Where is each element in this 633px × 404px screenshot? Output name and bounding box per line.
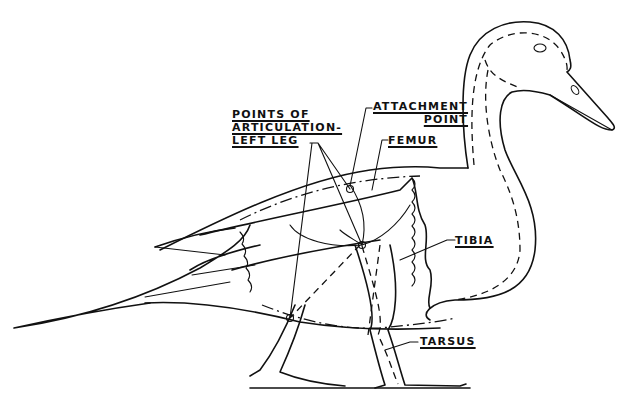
label-tarsus: TARSUS bbox=[420, 335, 476, 348]
leader-tibia bbox=[400, 240, 455, 260]
far-leg-bone-dashed bbox=[290, 245, 360, 318]
near-leg bbox=[355, 245, 466, 388]
label-femur: FEMUR bbox=[388, 134, 437, 147]
wing-outline bbox=[200, 178, 431, 308]
label-tibia: TIBIA bbox=[455, 234, 494, 247]
femur-bone bbox=[340, 185, 364, 245]
neck-dashed-line bbox=[455, 33, 567, 300]
leader-articulation bbox=[290, 143, 362, 318]
body-back-line bbox=[160, 167, 468, 250]
leader-femur bbox=[372, 140, 388, 190]
tail-outline bbox=[14, 225, 260, 328]
label-points-of-articulation: POINTS OF ARTICULATION- LEFT LEG bbox=[232, 108, 342, 147]
near-leg-bone-dashed bbox=[362, 245, 398, 384]
label-attachment-point: ATTACHMENT POINT bbox=[373, 100, 468, 126]
duck-anatomy-drawing bbox=[0, 0, 633, 404]
wing-wavy-edge bbox=[412, 178, 415, 286]
eye bbox=[534, 44, 546, 52]
leader-attachment bbox=[350, 108, 372, 186]
neck-head-outline bbox=[426, 22, 614, 320]
leader-tarsus bbox=[385, 342, 418, 350]
far-leg bbox=[250, 305, 345, 386]
